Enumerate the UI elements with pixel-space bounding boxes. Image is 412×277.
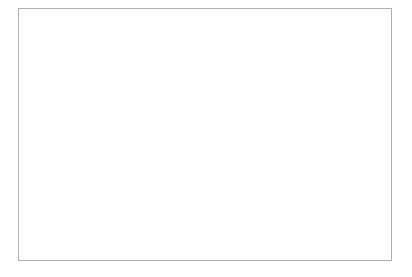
chart-container: 0.0%5.0%10.0%15.0%20.0%25.0%30.0%1970-71… bbox=[0, 0, 412, 277]
chart-border bbox=[18, 8, 392, 261]
